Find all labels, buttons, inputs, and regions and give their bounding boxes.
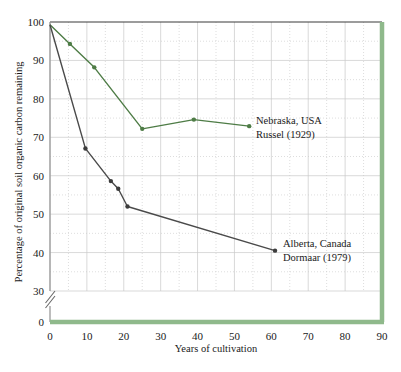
x-axis-title: Years of cultivation: [175, 343, 258, 354]
series-label-alberta-line2: Dormaar (1979): [283, 252, 351, 264]
data-point: [109, 179, 113, 183]
data-point: [68, 42, 72, 46]
y-tick-label: 40: [33, 247, 45, 259]
x-tick-label: 20: [118, 330, 130, 342]
data-point: [92, 65, 96, 69]
x-tick-label: 30: [155, 330, 167, 342]
data-point: [192, 117, 196, 121]
chart-canvas: 0102030405060708090 030405060708090100 Y…: [0, 0, 401, 372]
x-tick-label: 70: [303, 330, 315, 342]
data-point: [247, 124, 251, 128]
data-point: [116, 187, 120, 191]
y-tick-label: 70: [33, 131, 45, 143]
chart-figure: 0102030405060708090 030405060708090100 Y…: [0, 0, 401, 372]
chart-background: [0, 0, 401, 372]
y-tick-label: 90: [33, 54, 45, 66]
y-tick-label: 100: [28, 16, 45, 28]
x-tick-label: 40: [192, 330, 204, 342]
data-point: [83, 146, 87, 150]
y-tick-label: 50: [33, 208, 45, 220]
y-tick-label: 80: [33, 93, 45, 105]
data-point: [140, 127, 144, 131]
data-point: [273, 248, 277, 252]
x-tick-label: 60: [266, 330, 278, 342]
y-tick-label: 0: [39, 316, 45, 328]
data-point: [125, 204, 129, 208]
x-tick-label: 50: [229, 330, 241, 342]
x-tick-label: 80: [340, 330, 352, 342]
series-label-nebraska-line2: Russel (1929): [256, 129, 315, 141]
series-label-nebraska-line1: Nebraska, USA: [256, 115, 322, 126]
y-tick-label: 30: [33, 285, 45, 297]
x-tick-label: 10: [81, 330, 93, 342]
x-tick-label: 90: [377, 330, 389, 342]
series-label-alberta-line1: Alberta, Canada: [283, 238, 352, 249]
y-axis-title: Percentage of original soil organic carb…: [13, 61, 24, 283]
y-tick-label: 60: [33, 170, 45, 182]
x-tick-label: 0: [47, 330, 53, 342]
